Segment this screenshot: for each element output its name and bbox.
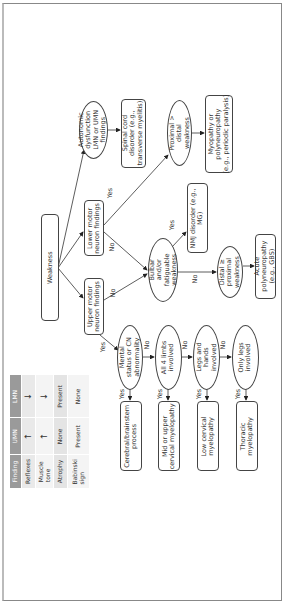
weakness-node: Weakness [41,214,59,321]
table-row: Babinski sign Present None [68,375,90,489]
all-4-limbs-node: All 4 limbs involved [155,325,182,390]
edge-label-all4-no: No [181,341,189,350]
mid-upper-cervical-label: Mid or upper cervical myelopathy [162,403,177,469]
arrow-down-icon: ↓ [41,392,48,400]
table-row: Reflexes ↑ ↓ [22,375,36,489]
edge-label-legs-hands-yes: Yes [195,389,203,400]
umn-findings-node: Upper motor neuron findings [84,278,104,335]
myopathy-node: Myopathy or polyneuropathy (e.g., period… [205,95,233,173]
bulbar-weakness-node: Bulbar and/or fatiguable weakness [148,238,178,302]
thoracic-node: Thoracic myelopathy [236,401,258,471]
spinal-cord-node: Spinal cord disorder (e.g., transverse m… [121,99,146,168]
mid-upper-cervical-node: Mid or upper cervical myelopathy [158,401,180,471]
edge-label-umn-no: No [109,289,117,298]
edge-label-bulbar-no: No [191,275,199,284]
legs-hands-node: Legs and hands involved [193,325,220,390]
table-row: Atrophy None Present [54,375,68,489]
arrow-down-icon: ↓ [25,392,32,400]
weakness-label: Weakness [46,251,53,284]
umn-lmn-findings-table: Finding UMN LMN Reflexes ↑ ↓ Muscle tone… [10,375,95,489]
cerebral-process-label: Cerebral/brainstem process [124,405,139,468]
arrow-up-icon: ↑ [25,432,32,440]
edge-label-lmn-no: No [108,243,116,252]
nmj-disorder-node: NMJ disorder (e.g., MG) [187,183,208,253]
edge-label-bulbar-yes: Yes [168,220,176,231]
table-header-row: Finding UMN LMN [10,375,22,489]
thoracic-label: Thoracic myelopathy [240,417,255,456]
acute-polyneuropathy-node: Acute polyneuropathy (e.g., GBS) [255,234,276,299]
lmn-findings-node: Lower motor neuron findings [84,200,104,256]
distal-weakness-label: Distal ≥ proximal weakness [219,256,241,288]
autonomic-node: Autonomic dysfunction LMN or UMN finding… [79,101,108,159]
all-4-limbs-label: All 4 limbs involved [161,341,176,375]
legs-hands-label: Legs and hands involved [195,343,217,372]
mental-status-node: Mental status or CN abnormality [117,325,143,390]
edge-label-mental-no: No [143,341,151,350]
edge-label-legs-hands-no: No [219,341,227,350]
mental-status-label: Mental status or CN abnormality [119,337,141,377]
arrow-up-icon: ↑ [41,432,48,440]
edge-label-mental-yes: Yes [118,389,126,400]
spinal-cord-label: Spinal cord disorder (e.g., transverse m… [122,101,144,166]
table-row: Muscle tone ↑ ↓ [36,375,54,489]
header-lmn: LMN [10,375,21,418]
edge-label-all4-yes: Yes [156,389,164,400]
flowchart-page: Weakness Upper motor neuron findings Low… [0,0,293,606]
edge-label-only-legs-yes: Yes [234,389,242,400]
bulbar-weakness-label: Bulbar and/or fatiguable weakness [148,254,178,287]
myopathy-label: Myopathy or polyneuropathy (e.g., period… [208,95,230,174]
umn-findings-label: Upper motor neuron findings [87,281,102,332]
acute-polyneuropathy-label: Acute polyneuropathy (e.g., GBS) [254,241,276,292]
nmj-disorder-label: NMJ disorder (e.g., MG) [190,188,205,248]
header-umn: UMN [10,418,21,455]
header-finding: Finding [10,455,21,489]
cerebral-process-node: Cerebral/brainstem process [120,401,142,471]
low-cervical-node: Low cervical myelopathy [197,401,219,471]
edge-label-umn-yes: Yes [99,342,107,353]
autonomic-label: Autonomic dysfunction LMN or UMN finding… [79,110,109,150]
proximal-weakness-label: Proximal > distal weakness [168,115,190,150]
edge-label-lmn-yes: Yes [106,188,114,199]
proximal-weakness-node: Proximal > distal weakness [167,100,192,166]
distal-weakness-node: Distal ≥ proximal weakness [217,246,243,298]
lmn-findings-label: Lower motor neuron findings [87,203,102,254]
only-legs-label: Only legs involved [238,342,253,372]
low-cervical-label: Low cervical myelopathy [201,416,216,456]
only-legs-node: Only legs involved [232,325,259,390]
